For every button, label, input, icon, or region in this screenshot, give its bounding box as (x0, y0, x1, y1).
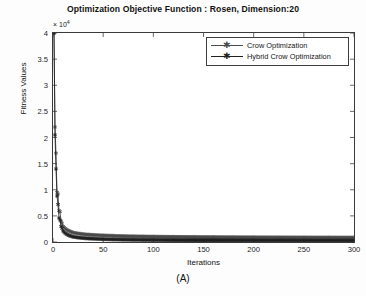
y-tick-label: 1.5 (2, 159, 48, 168)
legend-label: Crow Optimization (244, 41, 307, 50)
star-marker-icon: ✱ (223, 42, 230, 49)
x-tick-label: 300 (334, 245, 366, 254)
x-tick-label: 0 (33, 245, 73, 254)
legend[interactable]: ✱Crow Optimization✱Hybrid Crow Optimizat… (206, 37, 349, 66)
legend-swatch: ✱ (210, 40, 244, 51)
y-exponent-base: × 10 (53, 21, 67, 28)
figure-panel: Optimization Objective Function : Rosen,… (0, 0, 366, 296)
x-tick-label: 100 (133, 245, 173, 254)
x-tick-label: 50 (83, 245, 123, 254)
page-title: Optimization Objective Function : Rosen,… (0, 4, 366, 14)
legend-swatch: ✱ (210, 51, 244, 62)
y-tick-label: 0.5 (2, 211, 48, 220)
legend-item-2[interactable]: ✱Hybrid Crow Optimization (210, 51, 345, 62)
x-tick-label: 200 (234, 245, 274, 254)
y-axis-exponent-label: × 104 (53, 19, 70, 28)
star-marker-icon: ✱ (223, 53, 230, 60)
legend-label: Hybrid Crow Optimization (244, 52, 331, 61)
x-tick-label: 150 (184, 245, 224, 254)
y-exponent-power: 4 (67, 19, 70, 25)
x-tick-label: 250 (284, 245, 324, 254)
legend-item-1[interactable]: ✱Crow Optimization (210, 40, 345, 51)
x-axis-label: Iterations (52, 258, 355, 267)
figure-caption: (A) (0, 273, 366, 284)
y-tick-label: 1 (2, 185, 48, 194)
y-axis-label: Fitness Values (19, 34, 28, 144)
